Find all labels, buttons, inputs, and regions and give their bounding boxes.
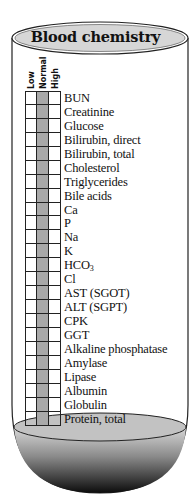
analyte-label: P (64, 216, 167, 230)
cell-normal[interactable] (37, 258, 49, 272)
cell-high[interactable] (49, 119, 61, 133)
cell-normal[interactable] (37, 286, 49, 300)
grid-row (25, 189, 61, 203)
grid-row (25, 161, 61, 175)
grid-row (25, 133, 61, 147)
cell-normal[interactable] (37, 244, 49, 258)
cell-low[interactable] (25, 161, 37, 175)
grid-row (25, 314, 61, 328)
cell-normal[interactable] (37, 119, 49, 133)
cell-high[interactable] (49, 216, 61, 230)
chart-title: Blood chemistry (0, 28, 191, 45)
cell-low[interactable] (25, 91, 37, 105)
cell-normal[interactable] (37, 412, 49, 426)
cell-high[interactable] (49, 370, 61, 384)
cell-low[interactable] (25, 286, 37, 300)
cell-low[interactable] (25, 356, 37, 370)
cell-high[interactable] (49, 356, 61, 370)
cell-low[interactable] (25, 147, 37, 161)
grid-row (25, 356, 61, 370)
cell-normal[interactable] (37, 133, 49, 147)
cell-normal[interactable] (37, 189, 49, 203)
grid-row (25, 258, 61, 272)
cell-normal[interactable] (37, 342, 49, 356)
cell-low[interactable] (25, 133, 37, 147)
cell-high[interactable] (49, 175, 61, 189)
cell-high[interactable] (49, 230, 61, 244)
cell-low[interactable] (25, 370, 37, 384)
cell-high[interactable] (49, 286, 61, 300)
cell-high[interactable] (49, 244, 61, 258)
cell-low[interactable] (25, 272, 37, 286)
cell-low[interactable] (25, 244, 37, 258)
cell-normal[interactable] (37, 91, 49, 105)
cell-low[interactable] (25, 384, 37, 398)
cell-low[interactable] (25, 203, 37, 217)
cell-low[interactable] (25, 216, 37, 230)
grid-row (25, 175, 61, 189)
cell-normal[interactable] (37, 105, 49, 119)
cell-low[interactable] (25, 258, 37, 272)
cell-high[interactable] (49, 314, 61, 328)
cell-normal[interactable] (37, 356, 49, 370)
cell-high[interactable] (49, 133, 61, 147)
analyte-label: GGT (64, 328, 167, 342)
cell-normal[interactable] (37, 328, 49, 342)
cell-normal[interactable] (37, 161, 49, 175)
analyte-list: BUNCreatinineGlucoseBilirubin, directBil… (64, 91, 167, 426)
cell-high[interactable] (49, 272, 61, 286)
cell-high[interactable] (49, 328, 61, 342)
grid-row (25, 203, 61, 217)
cell-low[interactable] (25, 230, 37, 244)
cell-low[interactable] (25, 342, 37, 356)
grid-row (25, 230, 61, 244)
analyte-label: ALT (SGPT) (64, 300, 167, 314)
cell-low[interactable] (25, 175, 37, 189)
grid-row (25, 119, 61, 133)
cell-high[interactable] (49, 161, 61, 175)
grid-row (25, 244, 61, 258)
cell-high[interactable] (49, 203, 61, 217)
cell-low[interactable] (25, 300, 37, 314)
cell-high[interactable] (49, 300, 61, 314)
cell-low[interactable] (25, 398, 37, 412)
cell-high[interactable] (49, 412, 61, 426)
cell-normal[interactable] (37, 147, 49, 161)
analyte-label: CPK (64, 314, 167, 328)
analyte-label: Protein, total (64, 412, 167, 426)
cell-low[interactable] (25, 412, 37, 426)
cell-normal[interactable] (37, 384, 49, 398)
cell-low[interactable] (25, 105, 37, 119)
cell-normal[interactable] (37, 314, 49, 328)
cell-high[interactable] (49, 384, 61, 398)
cell-high[interactable] (49, 105, 61, 119)
cell-normal[interactable] (37, 370, 49, 384)
cell-high[interactable] (49, 342, 61, 356)
cell-normal[interactable] (37, 203, 49, 217)
cell-high[interactable] (49, 91, 61, 105)
cell-normal[interactable] (37, 398, 49, 412)
cell-normal[interactable] (37, 300, 49, 314)
cell-low[interactable] (25, 189, 37, 203)
cell-high[interactable] (49, 258, 61, 272)
cell-normal[interactable] (37, 230, 49, 244)
grid-row (25, 370, 61, 384)
analyte-label: Na (64, 230, 167, 244)
cell-low[interactable] (25, 314, 37, 328)
cell-low[interactable] (25, 119, 37, 133)
cell-normal[interactable] (37, 216, 49, 230)
cell-high[interactable] (49, 398, 61, 412)
cell-low[interactable] (25, 328, 37, 342)
analyte-label: Bilirubin, direct (64, 133, 167, 147)
column-label-high: High (51, 68, 60, 89)
analyte-label: Cl (64, 272, 167, 286)
grid-row (25, 216, 61, 230)
cell-high[interactable] (49, 147, 61, 161)
cell-high[interactable] (49, 189, 61, 203)
analyte-label: Glucose (64, 119, 167, 133)
analyte-label: Alkaline phosphatase (64, 342, 167, 356)
cell-normal[interactable] (37, 272, 49, 286)
grid-row (25, 147, 61, 161)
grid-row (25, 384, 61, 398)
cell-normal[interactable] (37, 175, 49, 189)
